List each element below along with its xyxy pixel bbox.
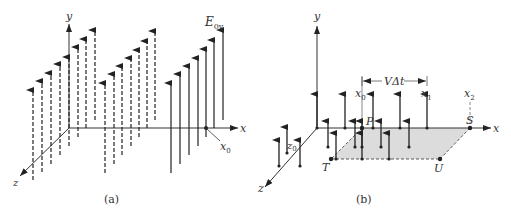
- point-U: [438, 157, 442, 161]
- caption-b: (b): [356, 193, 372, 206]
- x0-label-a: x0: [220, 140, 231, 155]
- vector-base-point: [315, 126, 318, 129]
- y-axis-label-b: y: [313, 10, 321, 23]
- shaded-region: [331, 128, 470, 159]
- x0-label-b: x0: [355, 87, 366, 102]
- field-vectors-a: [33, 30, 223, 180]
- label-S: S: [466, 114, 474, 127]
- x-axis-label-b: x: [493, 122, 500, 135]
- x1-label: x1: [421, 87, 432, 102]
- panel-b: y x z z0 VΔt x0 x1 x2 P S T U (b): [257, 10, 500, 206]
- caption-a: (a): [104, 193, 119, 206]
- z-axis-b: [265, 128, 317, 187]
- vector-base-point: [398, 126, 401, 129]
- vector-base-point: [277, 164, 280, 167]
- point-P: [360, 126, 364, 130]
- point-T: [329, 157, 333, 161]
- vector-base-point: [343, 126, 346, 129]
- distance-label: VΔt: [384, 75, 405, 88]
- x2-label: x2: [464, 87, 475, 102]
- label-U: U: [434, 162, 444, 175]
- vector-base-point: [298, 164, 301, 167]
- figure-canvas: y x z E0y x0 (a) y x z z0 VΔt: [0, 0, 511, 213]
- x0-leader-line: [207, 129, 220, 141]
- vector-base-point: [425, 126, 428, 129]
- vector-base-point: [353, 145, 356, 148]
- panel-a: y x z E0y x0 (a): [12, 10, 247, 206]
- vector-base-point: [379, 145, 382, 148]
- z-axis-label-a: z: [12, 177, 19, 188]
- y-axis-label-a: y: [65, 10, 73, 23]
- vector-base-point: [326, 145, 329, 148]
- field-label: E0y: [204, 15, 224, 31]
- x-axis-label-a: x: [240, 122, 247, 135]
- vector-base-point: [407, 145, 410, 148]
- vector-base-point: [285, 151, 288, 154]
- vector-base-point: [360, 157, 363, 160]
- vector-base-point: [334, 157, 337, 160]
- vector-base-point: [387, 157, 390, 160]
- z-axis-a: [20, 128, 69, 176]
- label-P: P: [365, 115, 374, 128]
- z-axis-label-b: z: [257, 182, 264, 195]
- label-T: T: [322, 161, 331, 174]
